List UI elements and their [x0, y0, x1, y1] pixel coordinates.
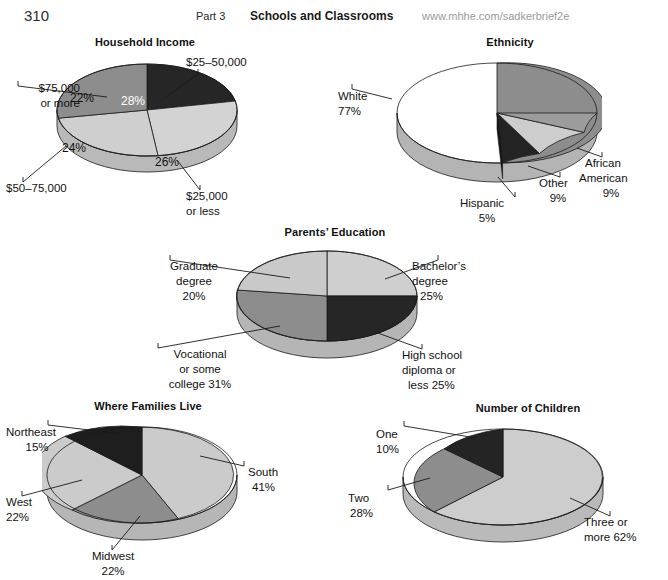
page-number: 310 — [24, 7, 49, 24]
callout-other-line2: 9% — [539, 192, 577, 206]
callout-vocational-line3: college 31% — [140, 378, 260, 392]
callout-graduate-line3: 20% — [140, 290, 248, 304]
callout-one-line2: 10% — [376, 443, 399, 457]
callout-white-line1: White — [338, 90, 367, 104]
callout-50-75k: $50–75,000 — [6, 182, 67, 196]
callout-two-line1: Two — [348, 492, 369, 506]
slice-value-25k-or-less: 26% — [155, 155, 179, 169]
callout-bachelors-line1: Bachelor’s — [412, 260, 466, 274]
callout-african-american-line1: African — [585, 157, 621, 171]
callout-graduate-line1: Graduate — [140, 260, 248, 274]
pie-ethnicity — [392, 56, 602, 186]
chart-title-where-families-live: Where Families Live — [48, 400, 248, 412]
callout-hispanic-line1: Hispanic — [460, 197, 504, 211]
callout-three-or-more-line2: more 62% — [584, 531, 636, 545]
callout-25k-or-less-line2: or less — [186, 205, 220, 219]
pie-svg-number-of-children — [398, 422, 608, 547]
chart-title-ethnicity: Ethnicity — [450, 36, 570, 48]
chapter-title: Schools and Classrooms — [250, 9, 393, 23]
callout-west-line2: 22% — [6, 511, 29, 525]
callout-graduate-line2: degree — [140, 275, 248, 289]
callout-bachelors-line3: 25% — [420, 290, 443, 304]
callout-vocational-line1: Vocational — [140, 348, 260, 362]
callout-northeast-line1: Northeast — [6, 426, 56, 440]
pie-parents-education — [232, 244, 422, 364]
callout-other-line1: Other — [539, 177, 568, 191]
callout-three-or-more-line1: Three or — [584, 516, 627, 530]
callout-one-line1: One — [376, 428, 398, 442]
callout-highschool-line1: High school — [402, 349, 462, 363]
part-label: Part 3 — [196, 10, 225, 22]
callout-white-line2: 77% — [338, 105, 361, 119]
chart-household-income: Household Income — [0, 34, 330, 224]
callout-two-line2: 28% — [350, 507, 373, 521]
callout-african-american-line2: American — [579, 172, 628, 186]
chart-where-families-live: Where Families Live — [0, 398, 330, 580]
running-head: 310 Part 3 Schools and Classrooms www.mh… — [0, 4, 668, 30]
callout-midwest-line1: Midwest — [82, 550, 144, 564]
slice-value-25-50k: 28% — [121, 94, 145, 108]
pie-svg-ethnicity — [392, 56, 602, 186]
pie-svg-parents-education — [232, 244, 422, 364]
callout-african-american-line3: 9% — [579, 187, 643, 201]
callout-south-line1: South — [248, 466, 278, 480]
callout-south-line2: 41% — [252, 481, 275, 495]
companion-site-url: www.mhhe.com/sadkerbrief2e — [422, 10, 569, 22]
callout-25-50k: $25–50,000 — [186, 56, 247, 70]
callout-highschool-line3: less 25% — [408, 379, 455, 393]
chart-parents-education: Parents’ Education — [140, 226, 530, 401]
callout-bachelors-line2: degree — [412, 275, 448, 289]
chart-title-parents-education: Parents’ Education — [235, 226, 435, 238]
pie-svg-household-income — [52, 58, 242, 178]
callout-75k-or-more-line1: $75,000 — [0, 82, 80, 96]
pie-svg-where-families-live — [42, 420, 242, 545]
callout-west-line1: West — [6, 496, 32, 510]
pie-where-families-live — [42, 420, 242, 545]
chart-title-household-income: Household Income — [45, 36, 245, 48]
chart-title-number-of-children: Number of Children — [448, 402, 608, 414]
textbook-page: 310 Part 3 Schools and Classrooms www.mh… — [0, 0, 668, 580]
callout-hispanic-line2: 5% — [460, 212, 514, 226]
slice-value-50-75k: 24% — [62, 141, 86, 155]
callout-75k-or-more-line2: or more — [0, 97, 80, 111]
callout-25k-or-less-line1: $25,000 — [186, 190, 228, 204]
callout-midwest-line2: 22% — [82, 565, 144, 579]
pie-household-income — [52, 58, 242, 178]
pie-number-of-children — [398, 422, 608, 547]
chart-ethnicity: Ethnicity — [330, 34, 668, 229]
callout-northeast-line2: 15% — [6, 441, 68, 455]
callout-vocational-line2: or some — [140, 363, 260, 377]
chart-number-of-children: Number of Children — [330, 398, 668, 580]
callout-highschool-line2: diploma or — [402, 364, 456, 378]
